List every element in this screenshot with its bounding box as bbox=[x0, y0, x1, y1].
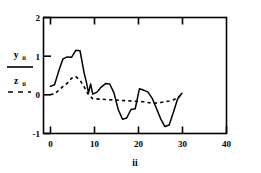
x-tick-label-40: 40 bbox=[222, 139, 232, 149]
x-tick-label-0: 0 bbox=[48, 139, 53, 149]
series-line-z bbox=[50, 77, 182, 104]
y-tick-label-neg1: -1 bbox=[33, 129, 41, 139]
legend-label-y-subscript: ii bbox=[22, 54, 26, 61]
y-tick-label-0: 0 bbox=[36, 90, 41, 100]
x-tick-label-20: 20 bbox=[134, 139, 144, 149]
series-line-y bbox=[50, 50, 182, 126]
x-tick-label-10: 10 bbox=[90, 139, 100, 149]
y-tick-label-2: 2 bbox=[36, 13, 41, 23]
x-tick-label-30: 30 bbox=[178, 139, 188, 149]
legend-label-z-subscript: ii bbox=[22, 80, 26, 87]
plot-frame bbox=[44, 18, 227, 134]
x-axis-ticks bbox=[51, 18, 227, 134]
x-axis-title: ii bbox=[132, 158, 138, 168]
legend-label-z: z bbox=[14, 76, 19, 86]
legend-label-y: y bbox=[14, 50, 19, 60]
y-tick-label-1: 1 bbox=[36, 52, 41, 62]
y-axis-ticks bbox=[44, 18, 52, 134]
chart-figure: 2 1 0 -1 0 10 20 30 40 ii y ii z ii bbox=[0, 0, 261, 173]
line-chart: 2 1 0 -1 0 10 20 30 40 ii y ii z ii bbox=[0, 0, 261, 173]
